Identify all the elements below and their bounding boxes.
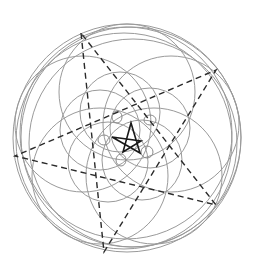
spirograph-diagram: [0, 0, 254, 269]
inner-circles-group: [15, 24, 239, 244]
inner-circle: [102, 120, 182, 200]
inner-circle: [68, 122, 148, 202]
inner-circle: [103, 56, 239, 192]
dashed-pentagram: [15, 33, 216, 252]
inner-circle: [60, 90, 140, 170]
outer-circle: [21, 27, 241, 247]
